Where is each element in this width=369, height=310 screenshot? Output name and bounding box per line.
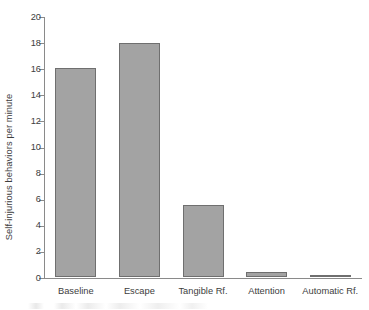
y-tick-label: 6 [36, 193, 41, 206]
plot-area: 02468101214161820 BaselineEscapeTangible… [44, 17, 362, 278]
bar-chart-figure: Self-injurious behaviors per minute 0246… [0, 0, 369, 310]
x-tick-label: Automatic Rf. [292, 285, 368, 298]
y-tick-label: 14 [31, 89, 41, 102]
y-axis-line [44, 17, 45, 279]
y-axis-title: Self-injurious behaviors per minute [2, 36, 16, 298]
y-tick-label: 18 [31, 37, 41, 50]
y-tick-label: 10 [31, 141, 41, 154]
bar-baseline [55, 68, 96, 277]
scan-artifact [28, 303, 208, 309]
bar-tangible-rf [183, 205, 224, 277]
y-tick-label: 16 [31, 63, 41, 76]
x-axis-line [44, 278, 362, 279]
bar-escape [119, 43, 160, 277]
y-tick-label: 4 [36, 219, 41, 232]
y-tick-label: 2 [36, 245, 41, 258]
y-tick-label: 12 [31, 115, 41, 128]
y-tick-label: 8 [36, 167, 41, 180]
y-tick-label: 0 [36, 272, 41, 285]
bar-automatic-rf [310, 275, 351, 278]
bar-attention [246, 272, 287, 277]
y-tick-label: 20 [31, 11, 41, 24]
